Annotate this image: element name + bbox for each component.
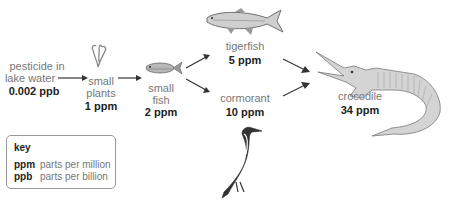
cormorant-value: 10 ppm [212,106,278,118]
tigerfish-icon [205,8,285,36]
tigerfish-label: tigerfish [220,40,270,52]
tigerfish-value: 5 ppm [220,54,270,66]
cormorant-label: cormorant [212,92,278,104]
arrow-plants-to-fish [118,75,142,81]
water-label-line2: lake water [0,72,60,84]
key-row-ppm: ppmparts per million [14,159,111,171]
water-value: 0.002 ppb [2,85,66,97]
key-abbr-ppb: ppb [14,171,40,183]
key-abbr-ppm: ppm [14,159,40,171]
arrow-cormorant-to-crocodile [283,82,311,98]
plants-label-line2: plants [84,87,118,99]
small-fish-label-line2: fish [146,94,176,106]
water-label-line1: pesticide in [0,60,74,72]
small-fish-value: 2 ppm [144,106,178,118]
cormorant-icon [208,122,258,202]
arrow-fish-to-cormorant [186,78,212,94]
key-desc-ppb: parts per billion [40,171,108,182]
plants-value: 1 ppm [84,100,118,112]
plants-label-line1: small [84,75,118,87]
arrow-tigerfish-to-crocodile [283,58,311,74]
crocodile-value: 34 ppm [330,104,390,116]
key-legend: key ppmparts per million ppbparts per bi… [6,135,116,189]
key-title: key [14,142,31,153]
small-fish-icon [144,60,184,76]
small-fish-label-line1: small [146,82,176,94]
arrow-fish-to-tigerfish [186,54,212,70]
small-plants-icon [90,42,110,68]
crocodile-label: crocodile [330,90,390,102]
key-desc-ppm: parts per million [40,159,111,170]
key-row-ppb: ppbparts per billion [14,171,108,183]
